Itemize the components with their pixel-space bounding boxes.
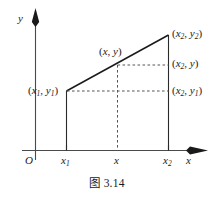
point-label-x2y2: (x2, y2) — [172, 28, 202, 40]
tick-label-x1: x1 — [61, 155, 70, 167]
x-axis-label: x — [186, 155, 191, 166]
tick-label-x2: x2 — [163, 155, 172, 167]
point-label-xy: (x, y) — [99, 46, 122, 57]
point-label-x1y1: (x1, y1) — [28, 85, 58, 97]
point-label-x2y1: (x2, y1) — [172, 85, 202, 97]
y-axis-label: y — [18, 13, 23, 24]
y-axis-arrow-icon — [32, 8, 39, 27]
figure-caption: 图 3.14 — [0, 174, 214, 190]
tick-label-x: x — [114, 155, 119, 166]
origin-label: O — [25, 155, 33, 166]
point-label-x2y: (x2, y) — [172, 58, 198, 70]
figure-container: y x O x1 x x2 (x1, y1) (x, y) (x2, y2) (… — [0, 0, 214, 199]
